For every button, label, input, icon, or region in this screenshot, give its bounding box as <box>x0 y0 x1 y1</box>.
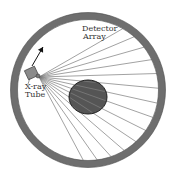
xray-tube-label: X-ray Tube <box>25 83 46 99</box>
ct-scanner-diagram: Detector Array X-ray Tube <box>0 0 173 179</box>
detector-label-line2: Array <box>82 33 117 41</box>
xray-beam-ray <box>39 37 134 77</box>
scanned-object <box>69 80 107 114</box>
xray-beam-ray <box>39 47 144 77</box>
detector-array-label: Detector Array <box>82 25 117 41</box>
tube-label-line2: Tube <box>25 91 46 99</box>
xray-tube-icon <box>24 66 38 80</box>
xray-tube-nozzle <box>36 74 40 78</box>
